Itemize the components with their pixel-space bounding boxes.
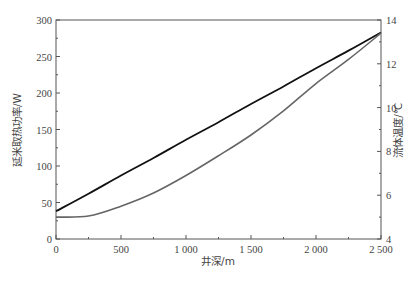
y-tick-label: 0 — [47, 234, 52, 245]
series-lines — [56, 32, 381, 217]
y-right-tick-label: 6 — [386, 190, 391, 201]
x-tick-label: 1 000 — [174, 244, 198, 255]
x-tick-label: 0 — [53, 244, 58, 255]
y-right-tick-label: 8 — [386, 146, 391, 157]
y-right-tick-label: 12 — [386, 59, 397, 70]
heat-extraction-power-line — [56, 32, 381, 211]
y-right-tick-label: 14 — [386, 15, 397, 26]
chart: 05001 0001 5002 0002 500 050100150200250… — [0, 0, 412, 291]
y-tick-label: 50 — [42, 198, 53, 209]
fluid-temperature-line — [56, 33, 381, 217]
y-tick-label: 200 — [36, 88, 52, 99]
x-tick-label: 1 500 — [239, 244, 263, 255]
x-tick-label: 500 — [113, 244, 129, 255]
x-tick-label: 2 000 — [304, 244, 328, 255]
y-tick-label: 100 — [36, 161, 52, 172]
y-axis-left-title: 延米取热功率/W — [11, 92, 23, 167]
x-tick-label: 2 500 — [369, 244, 393, 255]
y-tick-label: 250 — [36, 52, 52, 63]
y-right-tick-label: 4 — [386, 234, 392, 245]
plot-frame — [56, 20, 381, 239]
y-tick-label: 300 — [36, 15, 52, 26]
x-axis-title: 井深/m — [201, 255, 235, 267]
y-axis-right-title: 流体温度/℃ — [392, 102, 404, 157]
x-axis-ticks: 05001 0001 5002 0002 500 — [53, 235, 392, 255]
y-tick-label: 150 — [36, 125, 52, 136]
